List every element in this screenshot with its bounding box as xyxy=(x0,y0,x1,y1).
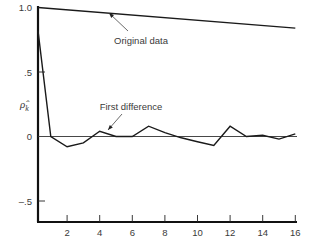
y-axis-label: ρ̂k xyxy=(19,98,30,113)
y-tick-label: .5 xyxy=(24,67,32,78)
x-tick-label: 8 xyxy=(162,227,167,238)
x-tick-label: 12 xyxy=(225,227,236,238)
y-tick-label: 1.0 xyxy=(19,2,32,13)
x-tick-label: 10 xyxy=(192,227,203,238)
series-line-first-difference xyxy=(38,31,295,147)
annotation-first-difference: First difference xyxy=(100,101,163,112)
x-tick-label: 14 xyxy=(257,227,268,238)
y-tick-label: 0 xyxy=(27,131,32,142)
x-tick-label: 4 xyxy=(97,227,102,238)
y-axis-label-subscript: k xyxy=(25,104,29,113)
chart: 246810121416 1.0.50–.5 Original dataFirs… xyxy=(0,0,310,245)
y-tick-label: –.5 xyxy=(19,196,32,207)
series-line-original-data xyxy=(38,8,295,29)
annotation-original-data: Original data xyxy=(114,35,169,46)
annotations: Original dataFirst difference xyxy=(100,13,169,130)
x-tick-label: 16 xyxy=(290,227,301,238)
series-group xyxy=(38,8,295,147)
x-ticks: 246810121416 xyxy=(64,215,300,238)
x-tick-label: 2 xyxy=(64,227,69,238)
x-tick-label: 6 xyxy=(130,227,135,238)
